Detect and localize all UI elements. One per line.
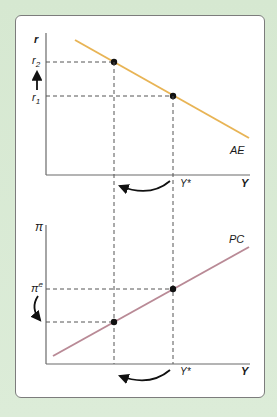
bottom-point-low: [111, 319, 117, 325]
r2-label: r2: [32, 54, 41, 69]
bottom-y-fall-arrow: [120, 370, 170, 380]
pc-curve: [53, 247, 249, 356]
bottom-y-axis-label: π: [35, 220, 44, 234]
top-ystar-label: Y*: [180, 178, 192, 189]
ae-curve: [75, 40, 249, 138]
bottom-ystar-label: Y*: [180, 366, 192, 377]
bottom-point-pie: [170, 286, 176, 292]
pc-label: PC: [229, 233, 244, 245]
top-panel: r r2 r1 AE Y* Y: [32, 33, 250, 191]
ae-label: AE: [229, 144, 245, 156]
top-y-fall-arrow: [120, 181, 170, 191]
top-x-axis-label: Y: [241, 177, 250, 189]
pi-fall-arrow: [34, 296, 40, 320]
ae-pc-diagram: r r2 r1 AE Y* Y π πe PC Y* Y: [0, 0, 277, 417]
bottom-panel: π πe PC Y* Y: [31, 220, 250, 380]
bottom-x-axis-label: Y: [241, 365, 250, 377]
pie-label: πe: [31, 280, 43, 294]
r1-label: r1: [32, 91, 40, 106]
top-y-axis-label: r: [34, 33, 39, 45]
